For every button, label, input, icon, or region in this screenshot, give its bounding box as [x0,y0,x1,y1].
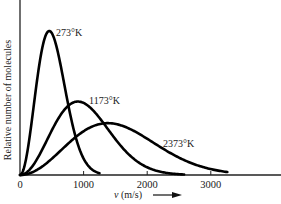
x-axis-label: v (m/s) [114,189,142,201]
maxwell-boltzmann-chart: 0 1000 2000 3000 273°K 1173°K 2373°K Rel… [0,0,281,204]
x-tick-label-1000: 1000 [73,179,94,190]
x-axis-label-unit: (m/s) [118,189,142,201]
x-tick-label-0: 0 [17,179,22,190]
x-axis-arrow-icon [153,192,182,198]
series-label-273k: 273°K [56,27,83,38]
y-axis-label: Relative number of molecules [2,40,13,160]
series-label-2373k: 2373°K [163,138,195,149]
x-tick-label-3000: 3000 [200,179,221,190]
series-label-1173k: 1173°K [89,95,121,106]
curve-273k [20,31,100,175]
